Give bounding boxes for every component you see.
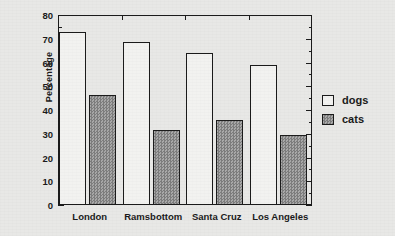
x-axis-tick-label: Los Angeles xyxy=(252,211,308,222)
y-axis-tick-right xyxy=(309,98,313,99)
bar-dogs-london xyxy=(59,32,86,205)
x-axis-group-tick xyxy=(122,15,123,20)
bar-dogs-santa-cruz xyxy=(186,53,213,205)
x-axis-group-tick xyxy=(185,15,186,20)
x-axis-tick-label: Santa Cruz xyxy=(192,211,242,222)
y-axis-tick-right xyxy=(306,110,312,111)
bar-dogs-ramsbottom xyxy=(123,42,150,205)
legend-swatch-cats xyxy=(322,114,334,125)
plot-area: 01020304050607080 LondonRamsbottomSanta … xyxy=(58,15,312,205)
legend-label-dogs: dogs xyxy=(342,94,368,106)
y-axis-tick-label: 10 xyxy=(42,176,53,187)
y-axis-tick-right xyxy=(306,63,312,64)
y-axis-tick-right xyxy=(309,27,313,28)
y-axis-tick-label: 30 xyxy=(42,128,53,139)
bar-dogs-los-angeles xyxy=(250,65,277,205)
legend-swatch-dogs xyxy=(322,95,334,106)
y-axis-tick-label: 20 xyxy=(42,152,53,163)
legend-entry-dogs: dogs xyxy=(322,94,368,106)
x-axis-tick-label: Ramsbottom xyxy=(124,211,182,222)
x-axis-group-tick xyxy=(249,15,250,20)
legend-label-cats: cats xyxy=(342,113,364,125)
y-axis-tick-label: 60 xyxy=(42,57,53,68)
y-axis-tick-right xyxy=(306,86,312,87)
y-axis-tick-label: 80 xyxy=(42,10,53,21)
y-axis-tick-label: 0 xyxy=(48,200,53,211)
y-axis-tick-right xyxy=(306,158,312,159)
y-axis-tick-label: 50 xyxy=(42,81,53,92)
y-axis-tick-right xyxy=(306,15,312,16)
y-axis-tick-right xyxy=(309,74,313,75)
y-axis-major-tick xyxy=(58,15,64,16)
y-axis-major-tick xyxy=(58,205,64,206)
y-axis-tick-right xyxy=(309,193,313,194)
y-axis-tick-label: 40 xyxy=(42,105,53,116)
legend-entry-cats: cats xyxy=(322,113,368,125)
y-axis-tick-right xyxy=(309,169,313,170)
y-axis-tick-right xyxy=(306,134,312,135)
bar-cats-los-angeles xyxy=(280,135,307,205)
bar-cats-london xyxy=(89,95,116,205)
y-axis-tick-right xyxy=(309,51,313,52)
chart-legend: dogscats xyxy=(322,94,368,125)
y-axis-tick-right xyxy=(309,146,313,147)
y-axis-tick-right xyxy=(306,205,312,206)
bar-cats-ramsbottom xyxy=(153,130,180,205)
y-axis-tick-right xyxy=(309,122,313,123)
y-axis-tick-label: 70 xyxy=(42,33,53,44)
bar-chart-figure: Percentage 01020304050607080 LondonRamsb… xyxy=(0,0,395,236)
y-axis-tick-right xyxy=(306,181,312,182)
y-axis-tick-right xyxy=(306,39,312,40)
y-axis-minor-tick xyxy=(58,27,62,28)
bar-cats-santa-cruz xyxy=(216,120,243,206)
x-axis-tick-label: London xyxy=(72,211,107,222)
